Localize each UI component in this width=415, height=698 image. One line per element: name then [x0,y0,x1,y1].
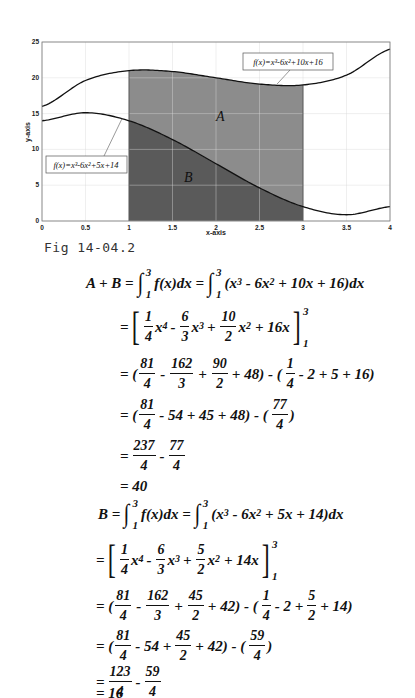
fraction: 774 [169,439,185,473]
term: + 14x [224,552,259,569]
term: + 16x [255,319,290,336]
x-axis-label: x-axis [206,229,226,236]
equals: = ( [120,407,137,424]
denominator: 4 [254,646,261,663]
exponent: 4 [162,320,167,331]
fraction: 1623 [170,357,193,391]
equals: = ( [120,366,137,383]
fraction: 594 [145,665,161,698]
term: + 48) - ( [232,366,282,383]
exponent: 3 [237,276,242,287]
fraction: 452 [188,589,204,623]
equals: = ( [96,598,113,615]
b-result: = 16 [96,686,123,698]
x-tick-label: 1 [127,224,131,231]
numerator: 162 [146,589,169,606]
fraction: 63 [180,310,189,344]
fraction: 52 [196,543,205,577]
y-tick-label: 20 [32,74,40,81]
numerator: 81 [139,398,155,415]
variable: x [191,319,199,336]
variable: x [167,552,175,569]
numerator: 45 [188,589,204,606]
fraction: 14 [120,543,129,577]
numerator: 77 [272,398,288,415]
numerator: 1 [262,589,271,606]
result-value: = 40 [120,478,147,495]
integrand-part: - 6x [242,275,270,292]
integrand-part: + 10x + 16)dx [275,275,365,292]
numerator: 59 [249,629,265,646]
numerator: 237 [133,439,156,456]
b-lhs: B = [98,506,120,523]
denominator: 2 [308,606,315,623]
operator: - [146,552,151,569]
numerator: 90 [212,357,228,374]
denominator: 4 [144,374,151,391]
integrand-part: - 6x [229,506,257,523]
left-bracket-icon: [ [131,307,139,347]
upper-limit: 3 [203,497,209,509]
label-lower-curve: f(x)=x³-6x²+5x+14 [53,160,119,170]
integral-sign-icon: ∫ [124,499,130,529]
denominator: 3 [178,374,185,391]
equals: = ( [96,638,113,655]
numerator: 123 [109,665,132,682]
fraction: 14 [262,589,271,623]
x-tick-label: 0.5 [81,224,90,231]
ab-line-2: = [ 14 x4 - 63 x3 + 102 x2 + 16x ] 31 [120,304,309,350]
integral-sign-icon: ∫ [208,268,214,298]
left-bracket-icon: [ [107,540,115,580]
upper-limit: 3 [146,266,152,278]
term: - 54 + [135,638,171,655]
fraction: 452 [175,629,191,663]
operator: + [198,366,207,383]
lower-limit: 1 [303,337,309,349]
operator: + [183,552,192,569]
y-tick-label: 15 [32,110,40,117]
fraction: 814 [115,589,131,623]
exponent: 2 [270,276,275,287]
denominator: 4 [121,560,128,577]
term: + 14) [320,598,352,615]
denominator: 2 [180,646,187,663]
label-upper-curve: f(x)=x³-6x²+10x+16 [253,57,323,67]
lower-limit: 1 [146,288,152,300]
numerator: 6 [180,310,189,327]
equals: = [120,448,129,465]
fraction: 14 [144,310,153,344]
integral-limits: 31 [146,266,152,300]
fraction: 814 [139,357,155,391]
numerator: 1 [144,310,153,327]
integrand-part: + 5x + 14)dx [261,506,343,523]
variable: x [207,552,215,569]
b-line-1: B = ∫ 31 f(x)dx = ∫ 31 (x3 - 6x2 + 5x + … [98,497,343,531]
y-tick-label: 5 [35,181,39,188]
denominator: 2 [216,374,223,391]
ab-result: = 40 [120,476,147,496]
integral-sign-icon: ∫ [194,499,200,529]
region-b-label: B [184,170,193,185]
fraction: 774 [272,398,288,432]
ab-line-4: = ( 814 - 54 + 45 + 48) - ( 774 ) [120,395,295,435]
ab-lhs: A + B = [86,275,134,292]
denominator: 2 [197,560,204,577]
exponent: 2 [256,507,261,518]
b-line-3: = ( 814 - 1623 + 452 + 42) - ( 14 - 2 + … [96,586,353,626]
lower-limit: 1 [203,519,209,531]
evaluation-limits: 31 [272,538,278,582]
denominator: 4 [173,456,180,473]
term: - 2 + [275,598,304,615]
numerator: 1 [286,357,295,374]
b-line-4: = ( 814 - 54 + 452 + 42) - ( 594 ) [96,626,272,666]
denominator: 2 [192,606,199,623]
operator: + [207,319,216,336]
ab-line-5: = 2374 - 774 [120,436,187,476]
result-value: = 16 [96,685,123,698]
denominator: 4 [276,415,283,432]
y-tick-label: 25 [32,38,40,45]
y-tick-label: 10 [32,145,40,152]
term: ) [290,407,295,424]
right-bracket-icon: ] [292,307,300,347]
integral-limits: 31 [216,266,222,300]
